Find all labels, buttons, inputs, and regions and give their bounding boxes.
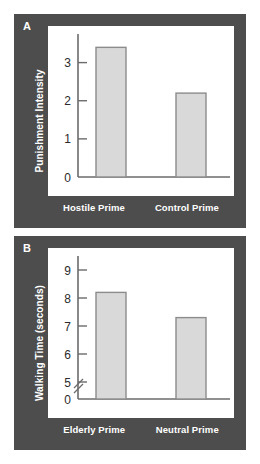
panel-b-xlabel-1: Neutral Prime [156,424,219,435]
y-tick-label-9: 9 [64,264,71,278]
y-tick-label-0: 0 [64,393,71,407]
panel-b-y-axis-label: Walking Time (seconds) [34,268,45,418]
panel-a-letter: A [23,20,31,32]
y-tick-label-8: 8 [64,292,71,306]
panel-a-x-axis-labels: Hostile Prime Control Prime [48,202,234,213]
panel-a-chart: 0123 [48,26,234,196]
panel-b-x-axis-labels: Elderly Prime Neutral Prime [48,424,234,435]
bar-1 [176,318,206,399]
panel-b-letter: B [23,242,31,254]
y-tick-label-5: 5 [64,376,71,390]
panel-b-plot-area: 056789 [48,248,234,418]
figure-container: A Punishment Intensity 0123 Hostile Prim… [0,0,260,464]
bar-0 [96,292,126,399]
y-tick-label-2: 2 [64,94,71,108]
bar-0 [96,47,126,177]
y-tick-label-6: 6 [64,348,71,362]
panel-a-plot-area: 0123 [48,26,234,196]
y-tick-label-1: 1 [64,132,71,146]
y-tick-label-0: 0 [64,171,71,185]
panel-b-chart: 056789 [48,248,234,418]
y-tick-label-7: 7 [64,320,71,334]
y-tick-label-3: 3 [64,56,71,70]
panel-b: B Walking Time (seconds) 056789 Elderly … [14,236,246,450]
panel-a: A Punishment Intensity 0123 Hostile Prim… [14,14,246,228]
panel-a-xlabel-1: Control Prime [155,202,219,213]
panel-a-xlabel-0: Hostile Prime [63,202,125,213]
panel-a-y-axis-label: Punishment Intensity [34,46,45,196]
bar-1 [176,93,206,177]
panel-b-xlabel-0: Elderly Prime [63,424,125,435]
